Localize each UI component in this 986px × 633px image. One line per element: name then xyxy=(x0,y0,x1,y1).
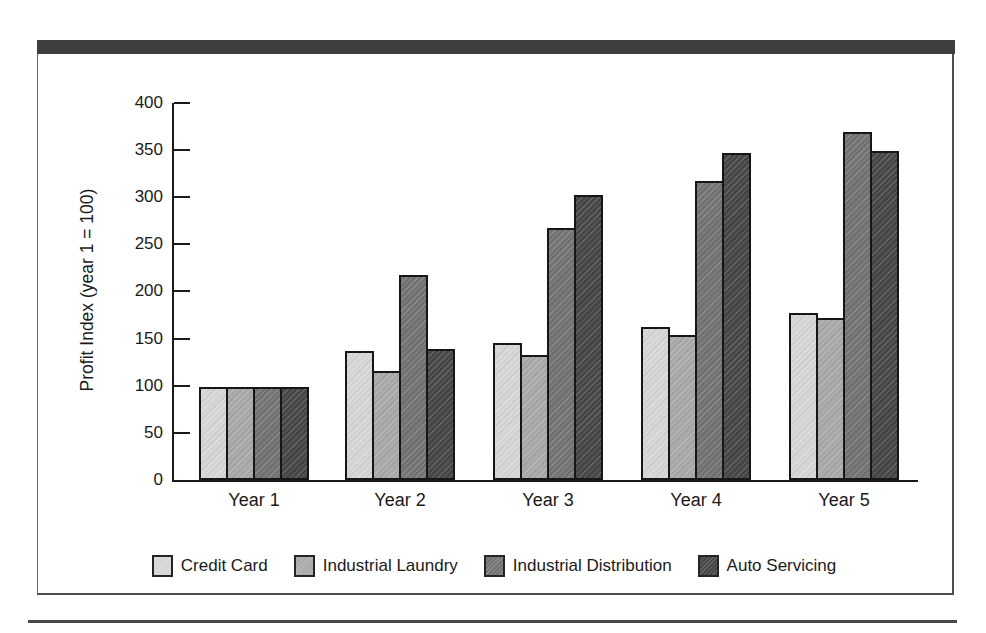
bar-auto-servicing-year-2 xyxy=(426,349,455,480)
bar-credit-card-year-1 xyxy=(199,387,228,480)
bar-industrial-laundry-year-5 xyxy=(816,318,845,480)
y-tick xyxy=(174,243,190,245)
bar-auto-servicing-year-1 xyxy=(280,387,309,480)
y-tick xyxy=(174,338,190,340)
bar-auto-servicing-year-4 xyxy=(722,153,751,480)
bar-industrial-distribution-year-3 xyxy=(547,228,576,480)
bar-credit-card-year-2 xyxy=(345,351,374,480)
legend-swatch-icon xyxy=(152,555,173,577)
y-tick-label: 50 xyxy=(105,423,163,443)
y-tick xyxy=(174,432,190,434)
legend-item-industrial-distribution: Industrial Distribution xyxy=(484,555,672,577)
y-tick xyxy=(174,385,190,387)
bar-industrial-distribution-year-5 xyxy=(843,132,872,480)
y-tick xyxy=(174,102,190,104)
y-tick-label: 200 xyxy=(105,281,163,301)
y-tick-label: 350 xyxy=(105,140,163,160)
bar-credit-card-year-5 xyxy=(789,313,818,480)
x-axis-line xyxy=(172,480,918,482)
y-tick-label: 400 xyxy=(105,93,163,113)
bottom-rule xyxy=(28,620,957,623)
legend-item-industrial-laundry: Industrial Laundry xyxy=(294,555,458,577)
x-axis-label-year-2: Year 2 xyxy=(355,490,445,511)
legend-item-auto-servicing: Auto Servicing xyxy=(698,555,837,577)
x-axis-label-year-4: Year 4 xyxy=(651,490,741,511)
x-axis-label-year-5: Year 5 xyxy=(799,490,889,511)
figure-page: Profit Index (year 1 = 100) 050100150200… xyxy=(0,0,986,633)
y-axis-title: Profit Index (year 1 = 100) xyxy=(77,174,101,406)
legend-swatch-icon xyxy=(294,555,315,577)
bar-auto-servicing-year-3 xyxy=(574,195,603,480)
bar-industrial-laundry-year-2 xyxy=(372,371,401,480)
bar-industrial-distribution-year-4 xyxy=(695,181,724,480)
legend: Credit CardIndustrial LaundryIndustrial … xyxy=(37,551,951,581)
legend-label: Industrial Distribution xyxy=(513,556,672,576)
y-tick xyxy=(174,149,190,151)
bar-industrial-laundry-year-3 xyxy=(520,355,549,480)
legend-item-credit-card: Credit Card xyxy=(152,555,268,577)
y-tick-label: 0 xyxy=(105,470,163,490)
y-tick-label: 150 xyxy=(105,329,163,349)
legend-label: Industrial Laundry xyxy=(323,556,458,576)
y-tick-label: 100 xyxy=(105,376,163,396)
bar-credit-card-year-4 xyxy=(641,327,670,480)
legend-swatch-icon xyxy=(484,555,505,577)
bar-credit-card-year-3 xyxy=(493,343,522,480)
y-tick xyxy=(174,290,190,292)
bar-industrial-distribution-year-1 xyxy=(253,387,282,480)
y-tick xyxy=(174,196,190,198)
y-tick-label: 250 xyxy=(105,234,163,254)
top-rule-bar xyxy=(37,40,955,54)
bar-auto-servicing-year-5 xyxy=(870,151,899,480)
plot-area xyxy=(172,103,918,480)
legend-label: Auto Servicing xyxy=(727,556,837,576)
bar-industrial-distribution-year-2 xyxy=(399,275,428,480)
x-axis-label-year-3: Year 3 xyxy=(503,490,593,511)
bar-industrial-laundry-year-4 xyxy=(668,335,697,480)
legend-label: Credit Card xyxy=(181,556,268,576)
bar-industrial-laundry-year-1 xyxy=(226,387,255,480)
y-tick-label: 300 xyxy=(105,187,163,207)
legend-swatch-icon xyxy=(698,555,719,577)
x-axis-label-year-1: Year 1 xyxy=(209,490,299,511)
